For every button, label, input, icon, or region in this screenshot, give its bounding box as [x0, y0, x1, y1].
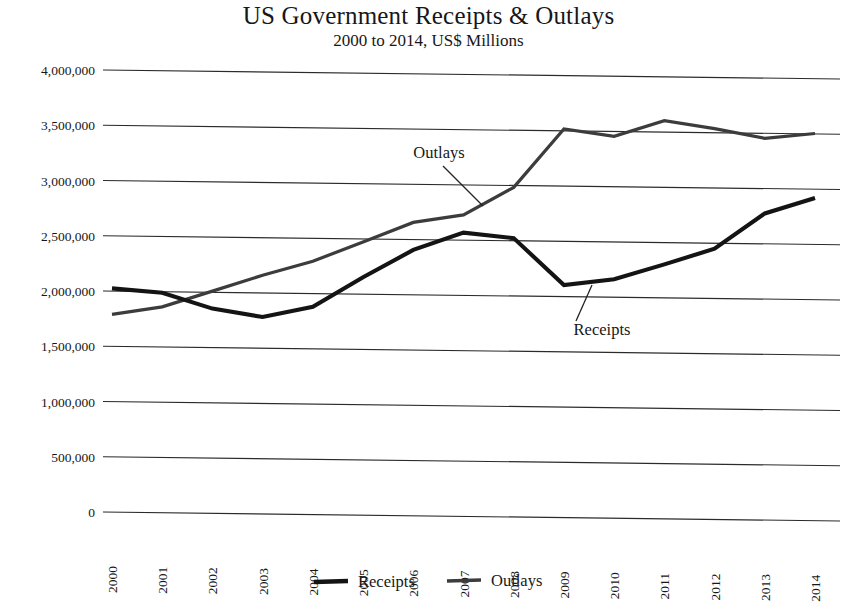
legend-swatch-outlays: [447, 580, 481, 581]
annotation-label-outlays: Outlays: [413, 143, 464, 162]
x-axis-tick-label: 2013: [758, 574, 773, 601]
y-axis-tick-label: 0: [88, 505, 95, 520]
x-axis-tick-labels: 2000200120022003200420052006200720082009…: [105, 566, 823, 602]
x-axis-tick-label: 2014: [808, 574, 823, 601]
y-axis-tick-label: 3,000,000: [41, 174, 95, 189]
x-axis-tick-label: 2012: [708, 574, 723, 601]
annotation-leader-receipts: [576, 285, 592, 321]
annotation-label-receipts: Receipts: [574, 320, 631, 339]
x-axis-tick-label: 2001: [155, 567, 170, 594]
y-axis-tick-label: 1,500,000: [41, 339, 95, 354]
y-axis-tick-label: 2,500,000: [41, 229, 95, 244]
gridline: [103, 181, 840, 190]
gridline: [103, 70, 840, 79]
chart-canvas: 4,000,0003,500,0003,000,0002,500,0002,00…: [0, 0, 857, 611]
gridline: [103, 457, 840, 466]
x-axis-tick-label: 2010: [607, 572, 622, 599]
y-axis-tick-labels: 4,000,0003,500,0003,000,0002,500,0002,00…: [41, 63, 95, 520]
x-axis-tick-label: 2011: [657, 573, 672, 600]
y-axis-tick-label: 1,000,000: [41, 395, 95, 410]
y-axis-tick-label: 3,500,000: [41, 118, 95, 133]
legend-label-outlays: Outlays: [491, 571, 542, 590]
chart-legend: Receipts Outlays: [314, 571, 542, 591]
y-axis-gridlines: [103, 70, 840, 521]
annotation-receipts: Receipts: [574, 285, 631, 339]
y-axis-tick-label: 4,000,000: [41, 63, 95, 78]
y-axis-tick-label: 500,000: [51, 450, 95, 465]
x-axis-tick-label: 2009: [557, 571, 572, 598]
legend-label-receipts: Receipts: [358, 572, 415, 591]
x-axis-tick-label: 2000: [105, 566, 120, 593]
annotation-leader-outlays: [443, 166, 483, 206]
x-axis-tick-label: 2003: [256, 568, 271, 595]
x-axis-tick-label: 2002: [205, 567, 220, 594]
annotation-outlays: Outlays: [413, 143, 483, 206]
gridline: [103, 402, 840, 411]
chart-figure: US Government Receipts & Outlays 2000 to…: [0, 0, 857, 611]
y-axis-tick-label: 2,000,000: [41, 284, 95, 299]
legend-swatch-receipts: [314, 581, 348, 582]
gridline: [103, 346, 840, 355]
x-axis-tick-label: 2007: [457, 570, 472, 597]
gridline: [103, 512, 840, 521]
